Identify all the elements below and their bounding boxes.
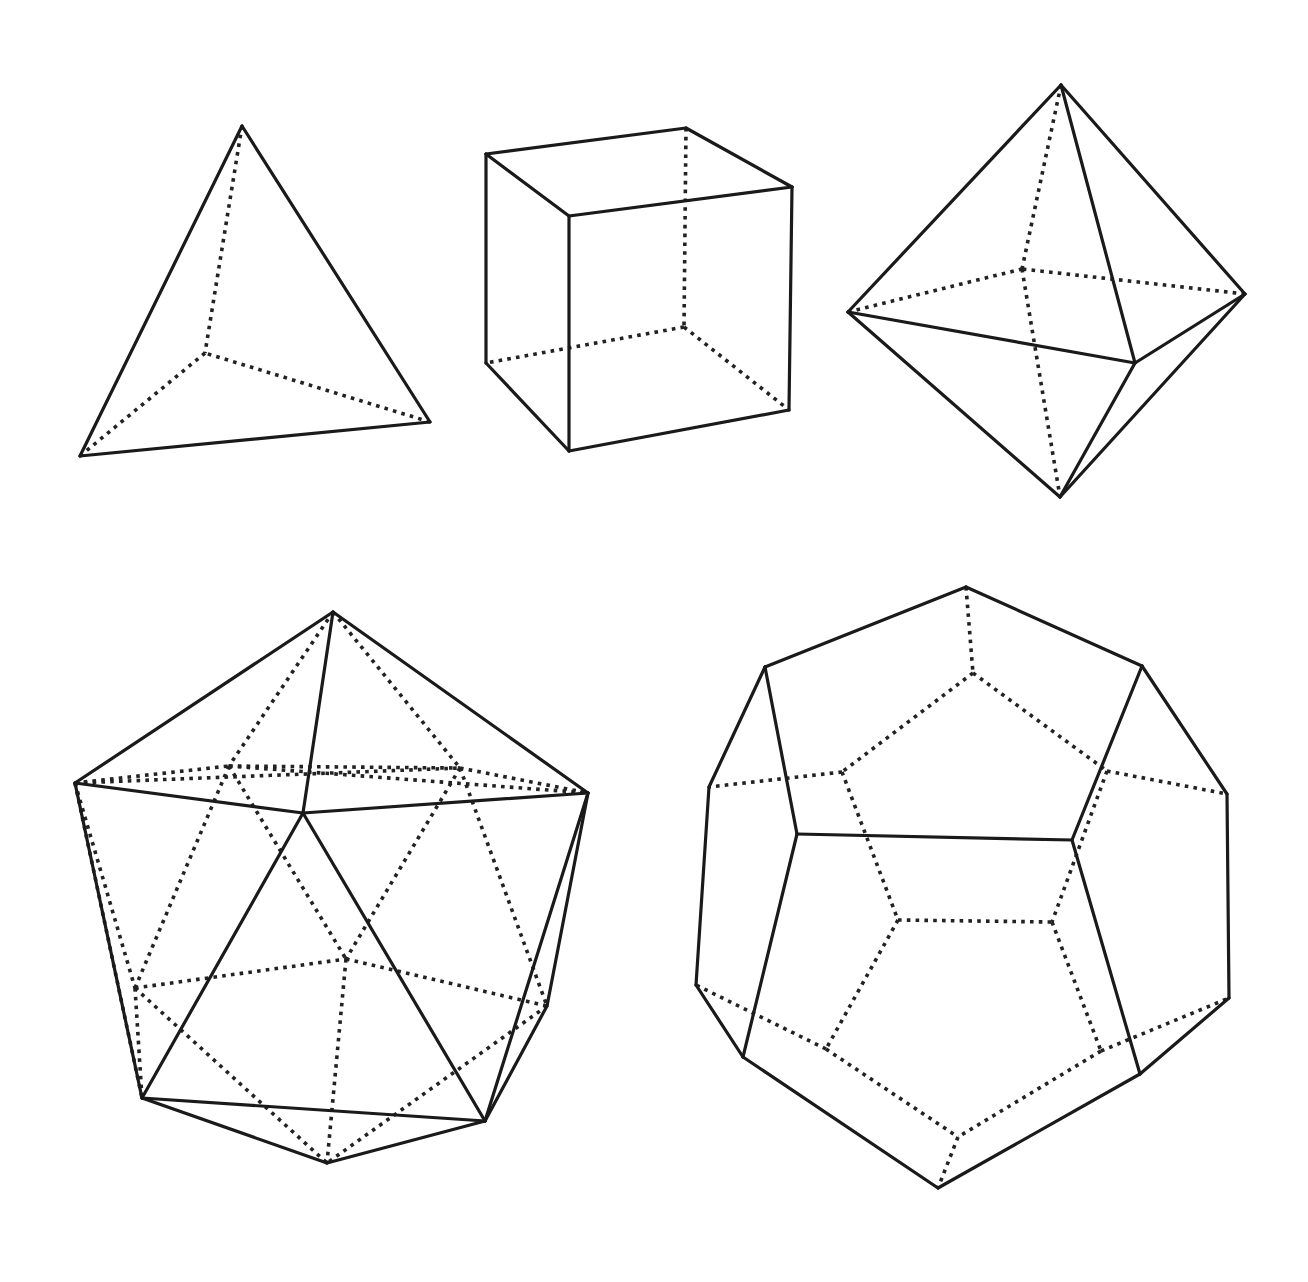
icosahedron-solid-edge — [485, 793, 588, 1121]
dodecahedron-solid-edge — [765, 587, 966, 667]
octahedron-drawing — [848, 85, 1245, 497]
icosahedron-dotted-edge — [75, 783, 135, 988]
cube-solid-edge — [486, 363, 569, 451]
icosahedron-dotted-edge — [327, 959, 346, 1163]
cube-dotted-edge — [684, 327, 789, 410]
dodecahedron-dotted-edge — [958, 1051, 1101, 1137]
dodecahedron-solid-edge — [743, 1057, 938, 1188]
cube-dotted-edge — [486, 327, 684, 363]
octahedron-solid-edge — [1060, 294, 1245, 497]
icosahedron-dotted-edge — [135, 959, 346, 988]
icosahedron-solid-edge — [303, 793, 588, 813]
octahedron-solid-edge — [848, 85, 1061, 312]
cube-drawing — [486, 128, 792, 451]
dodecahedron-dotted-edge — [973, 673, 1107, 771]
dodecahedron-dotted-edge — [1052, 922, 1101, 1051]
dodecahedron-solid-edge — [696, 985, 743, 1057]
icosahedron-solid-edge — [303, 612, 333, 813]
dodecahedron-solid-edge — [797, 834, 1072, 840]
dodecahedron-dotted-edge — [1052, 771, 1107, 922]
tetrahedron-drawing — [80, 126, 430, 456]
cube-solid-edge — [569, 410, 789, 451]
icosahedron-dotted-edge — [346, 768, 460, 959]
cube-solid-edge — [486, 128, 686, 154]
octahedron-dotted-edge — [1022, 85, 1061, 269]
dodecahedron-dotted-edge — [826, 1049, 958, 1137]
tetrahedron-dotted-edge — [205, 353, 430, 422]
dodecahedron-solid-edge — [1227, 794, 1229, 998]
tetrahedron-dotted-edge — [205, 126, 242, 353]
icosahedron-dotted-edge — [229, 612, 333, 766]
platonic-solids-figure — [0, 0, 1308, 1282]
dodecahedron-dotted-edge — [842, 673, 973, 772]
cube-solid-edge — [686, 128, 792, 187]
icosahedron-drawing — [75, 612, 588, 1163]
cube-solid-edge — [789, 187, 792, 410]
icosahedron-dotted-edge — [135, 988, 327, 1163]
dodecahedron-solid-edge — [709, 667, 765, 787]
dodecahedron-solid-edge — [696, 787, 709, 985]
octahedron-solid-edge — [848, 312, 1060, 497]
cube-solid-edge — [569, 187, 792, 216]
cube-dotted-edge — [684, 128, 686, 327]
dodecahedron-solid-edge — [1072, 840, 1140, 1074]
octahedron-dotted-edge — [1022, 269, 1245, 294]
dodecahedron-solid-edge — [765, 667, 797, 834]
polyhedra-canvas — [0, 0, 1308, 1282]
dodecahedron-solid-edge — [1140, 998, 1229, 1074]
cube-solid-edge — [486, 154, 569, 216]
dodecahedron-solid-edge — [938, 1074, 1140, 1188]
dodecahedron-dotted-edge — [826, 920, 898, 1049]
octahedron-dotted-edge — [1022, 269, 1060, 497]
dodecahedron-solid-edge — [1072, 666, 1142, 840]
octahedron-dotted-edge — [848, 269, 1022, 312]
icosahedron-solid-edge — [142, 813, 303, 1098]
tetrahedron-solid-edge — [80, 422, 430, 456]
icosahedron-solid-edge — [75, 783, 303, 813]
icosahedron-dotted-edge — [229, 766, 346, 959]
dodecahedron-dotted-edge — [1107, 771, 1227, 794]
dodecahedron-dotted-edge — [898, 920, 1052, 922]
icosahedron-solid-edge — [303, 813, 485, 1121]
icosahedron-solid-edge — [75, 612, 333, 783]
octahedron-solid-edge — [1060, 363, 1135, 497]
icosahedron-dotted-edge — [346, 959, 547, 1006]
icosahedron-dotted-edge — [229, 766, 460, 768]
icosahedron-dotted-edge — [135, 766, 229, 988]
dodecahedron-dotted-edge — [709, 772, 842, 787]
dodecahedron-drawing — [696, 587, 1229, 1188]
dodecahedron-solid-edge — [743, 834, 797, 1057]
dodecahedron-solid-edge — [966, 587, 1142, 666]
octahedron-solid-edge — [848, 312, 1135, 363]
dodecahedron-dotted-edge — [966, 587, 973, 673]
dodecahedron-dotted-edge — [938, 1137, 958, 1188]
tetrahedron-solid-edge — [80, 126, 242, 456]
icosahedron-dotted-edge — [229, 766, 588, 793]
dodecahedron-dotted-edge — [842, 772, 898, 920]
icosahedron-solid-edge — [327, 1121, 485, 1163]
tetrahedron-dotted-edge — [80, 353, 205, 456]
tetrahedron-solid-edge — [242, 126, 430, 422]
icosahedron-solid-edge — [75, 783, 142, 1098]
dodecahedron-solid-edge — [1142, 666, 1227, 794]
